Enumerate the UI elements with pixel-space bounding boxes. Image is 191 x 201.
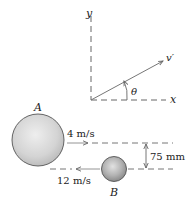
sphere-b-label: B xyxy=(109,186,118,199)
sphere-a-path: 4 m/s xyxy=(67,128,173,143)
sphere-a: A xyxy=(12,101,64,166)
y-axis-label: y xyxy=(85,7,93,20)
angle-arc xyxy=(124,81,127,100)
sphere-b-velocity: 12 m/s xyxy=(57,175,91,186)
x-axis-label: x xyxy=(170,93,177,106)
vector-label: v′ xyxy=(166,52,175,63)
rebound-velocity-vector: v′ θ xyxy=(91,52,175,100)
offset-label: 75 mm xyxy=(150,151,185,162)
sphere-a-label: A xyxy=(33,101,42,114)
angle-label: θ xyxy=(131,86,137,97)
offset-dimension: 75 mm xyxy=(146,144,185,168)
impact-diagram: y x v′ θ A 4 m/s B 12 m/s 75 mm xyxy=(0,0,191,201)
sphere-b: B xyxy=(102,157,127,200)
sphere-a-velocity: 4 m/s xyxy=(67,128,95,139)
